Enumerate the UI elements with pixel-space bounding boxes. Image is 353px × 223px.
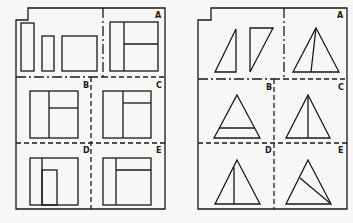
panel-triangles	[198, 8, 347, 209]
option-a-triangle[interactable]	[293, 28, 339, 72]
label-b-triangle: B	[266, 83, 272, 92]
piece-short-rectangle	[42, 36, 54, 71]
piece-tall-rectangle	[21, 23, 34, 71]
panel-border	[198, 8, 347, 209]
label-c-rect: C	[156, 81, 162, 90]
panel-border	[16, 8, 165, 209]
option-d-triangle[interactable]	[215, 160, 260, 204]
label-d-rect: D	[83, 146, 90, 155]
label-e-rect: E	[156, 146, 161, 155]
label-c-triangle: C	[338, 83, 344, 92]
label-d-triangle: D	[265, 146, 272, 155]
puzzle-figure: A B C D E A B C D E	[0, 0, 353, 223]
label-a-triangle: A	[337, 11, 344, 20]
option-b-rect[interactable]	[30, 91, 78, 138]
piece-square	[62, 36, 97, 71]
label-a-rect: A	[155, 11, 162, 20]
label-b-rect: B	[83, 81, 89, 90]
option-d-rect[interactable]	[30, 158, 78, 205]
option-e-triangle[interactable]	[286, 160, 331, 204]
piece-triangle-up	[215, 29, 236, 72]
option-b-triangle[interactable]	[214, 95, 260, 138]
panel-rectangles	[16, 8, 165, 209]
option-a-rect[interactable]	[110, 22, 158, 71]
piece-triangle-down	[250, 28, 273, 72]
label-e-triangle: E	[338, 146, 343, 155]
option-e-rect[interactable]	[103, 158, 151, 205]
option-c-triangle[interactable]	[286, 95, 330, 138]
option-c-rect[interactable]	[103, 91, 151, 138]
